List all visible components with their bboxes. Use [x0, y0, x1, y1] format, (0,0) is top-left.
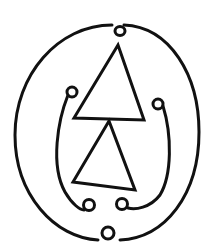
right-bottom-loop-icon	[117, 199, 128, 210]
inner-right-arc	[128, 106, 169, 209]
upper-triangle	[74, 45, 144, 120]
bottom-loop-icon	[102, 227, 114, 239]
outer-oval-left	[15, 25, 112, 240]
right-top-loop-icon	[153, 99, 163, 109]
sigil-drawing	[0, 0, 219, 251]
top-loop-icon	[115, 27, 125, 36]
inner-left-arc	[57, 95, 84, 210]
lower-triangle	[73, 121, 135, 190]
left-bottom-loop-icon	[84, 200, 95, 211]
